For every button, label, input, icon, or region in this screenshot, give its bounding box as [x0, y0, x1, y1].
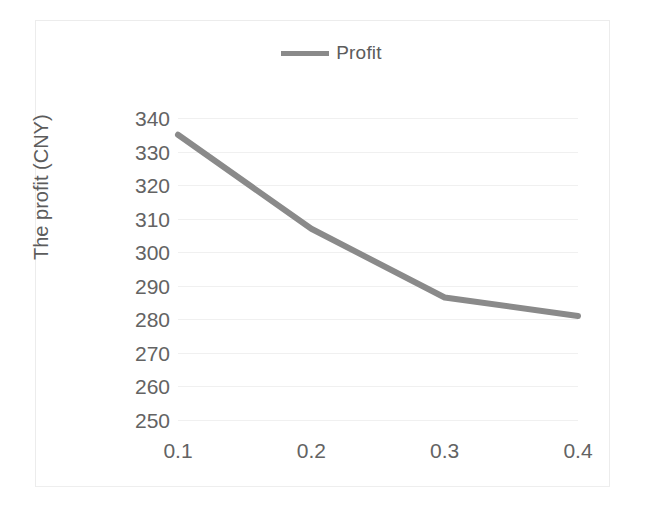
x-tick-label-0.4: 0.4 — [563, 440, 592, 461]
x-axis-line — [36, 486, 610, 487]
x-tick-label-0.2: 0.2 — [297, 440, 326, 461]
legend-label-profit: Profit — [336, 42, 382, 64]
y-tick-label-300: 300 — [108, 242, 170, 263]
gridline-250 — [178, 420, 578, 421]
legend-swatch-profit — [281, 51, 329, 56]
y-tick-label-310: 310 — [108, 208, 170, 229]
x-tick-label-0.1: 0.1 — [163, 440, 192, 461]
y-tick-label-320: 320 — [108, 175, 170, 196]
y-tick-label-290: 290 — [108, 275, 170, 296]
chart-legend: Profit — [0, 38, 663, 68]
legend-entry-profit[interactable]: Profit — [281, 42, 382, 64]
y-axis-title: The profit (CNY) — [30, 120, 54, 260]
y-axis-tick-labels: 340330320310300290280270260250 — [108, 118, 170, 420]
plot-area — [178, 118, 578, 420]
y-tick-label-340: 340 — [108, 108, 170, 129]
y-tick-label-250: 250 — [108, 410, 170, 431]
y-tick-label-270: 270 — [108, 342, 170, 363]
series-line-profit — [178, 118, 578, 420]
chart-root: Profit The profit (CNY) 3403303203103002… — [0, 0, 663, 518]
y-tick-label-260: 260 — [108, 376, 170, 397]
y-tick-label-330: 330 — [108, 141, 170, 162]
x-axis-tick-labels: 0.10.20.30.4 — [178, 440, 578, 470]
y-tick-label-280: 280 — [108, 309, 170, 330]
x-tick-label-0.3: 0.3 — [430, 440, 459, 461]
